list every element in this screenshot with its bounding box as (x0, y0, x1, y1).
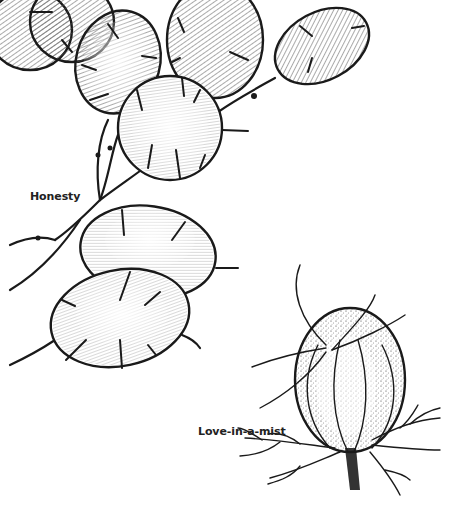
love-in-a-mist-plant (238, 265, 440, 495)
label-honesty: Honesty (30, 190, 80, 203)
label-love-in-a-mist: Love-in-a-mist (198, 425, 286, 438)
